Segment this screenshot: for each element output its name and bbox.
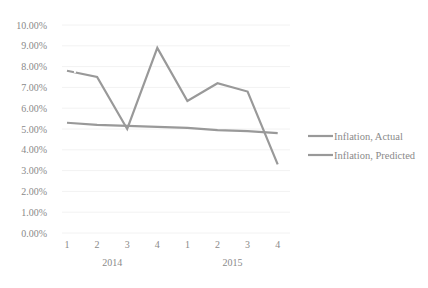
x-axis-labels: 12341234 [65, 239, 281, 250]
legend-label: Inflation, Predicted [334, 150, 416, 161]
x-tick-label: 3 [245, 239, 250, 250]
y-tick-label: 4.00% [21, 144, 47, 155]
y-tick-label: 3.00% [21, 165, 47, 176]
x-tick-label: 2 [95, 239, 100, 250]
y-tick-label: 5.00% [21, 124, 47, 135]
x-axis-group-labels: 20142015 [102, 257, 242, 268]
series-line-predicted [67, 123, 278, 133]
x-tick-label: 4 [155, 239, 160, 250]
x-tick-label: 1 [65, 239, 70, 250]
y-tick-label: 7.00% [21, 82, 47, 93]
x-tick-label: 2 [215, 239, 220, 250]
y-tick-label: 10.00% [16, 20, 47, 31]
x-tick-label: 3 [125, 239, 130, 250]
x-tick-label: 1 [185, 239, 190, 250]
legend-label: Inflation, Actual [334, 131, 403, 142]
line-chart: 0.00%1.00%2.00%3.00%4.00%5.00%6.00%7.00%… [0, 0, 428, 288]
series-line-actual [67, 48, 278, 164]
legend: Inflation, ActualInflation, Predicted [308, 131, 416, 161]
y-tick-label: 6.00% [21, 103, 47, 114]
y-tick-label: 2.00% [21, 186, 47, 197]
x-group-label: 2014 [102, 257, 122, 268]
y-tick-label: 1.00% [21, 207, 47, 218]
y-tick-label: 0.00% [21, 228, 47, 239]
gridlines [62, 25, 290, 233]
y-tick-label: 9.00% [21, 40, 47, 51]
y-tick-label: 8.00% [21, 61, 47, 72]
y-axis-labels: 0.00%1.00%2.00%3.00%4.00%5.00%6.00%7.00%… [16, 20, 47, 239]
x-group-label: 2015 [223, 257, 243, 268]
x-tick-label: 4 [275, 239, 280, 250]
series-lines [67, 48, 278, 164]
